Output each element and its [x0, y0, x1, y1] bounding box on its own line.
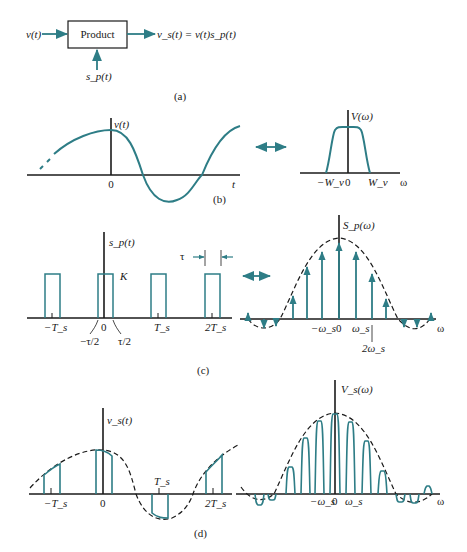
tick-ts: T_s [154, 475, 170, 487]
tick-zero: 0 [101, 321, 107, 333]
caption-b: (b) [213, 193, 226, 206]
freq-xlabel: ω [400, 176, 407, 188]
sampling-diagram: v(t) Product v_s(t) = v(t)s_p(t) s_p(t) … [0, 0, 467, 552]
input-label: v(t) [26, 28, 42, 41]
time-xlabel: t [232, 178, 236, 190]
caption-d: (d) [194, 527, 207, 540]
freq-marker-2ws: 2ω_s [362, 342, 385, 354]
panel-d-time: v_s(t) −T_s 0 T_s 2T_s (d) [29, 408, 238, 540]
tick-neg-ts: −T_s [44, 321, 67, 333]
impulse-train [248, 243, 431, 328]
tick-zero: 0 [100, 497, 106, 509]
product-label: Product [80, 28, 114, 40]
pulse-edge-right: τ/2 [118, 335, 131, 347]
output-label: v_s(t) = v(t)s_p(t) [157, 28, 236, 41]
pulse-train [45, 274, 220, 318]
amplitude-label: K [119, 270, 128, 282]
freq-tick-ws: ω_s [352, 322, 370, 334]
time-ylabel: s_p(t) [109, 236, 135, 249]
freq-tick-neg-w: −W_v [317, 176, 344, 188]
tick-ts: T_s [154, 321, 170, 333]
signal-curve [54, 126, 240, 202]
tick-2ts: 2T_s [205, 321, 226, 333]
pulse-edge-left: −τ/2 [80, 335, 99, 347]
caption-a: (a) [174, 90, 187, 103]
time-origin: 0 [108, 178, 114, 190]
freq-ylabel: V(ω) [351, 110, 373, 123]
panel-b-freq: V(ω) −W_v 0 W_v ω [300, 110, 407, 188]
leader-right [113, 320, 121, 334]
tick-neg-ts: −T_s [44, 497, 67, 509]
freq-ylabel: S_p(ω) [343, 219, 375, 232]
sinc-envelope [241, 413, 432, 502]
panel-b-time: v(t) 0 t (b) [27, 118, 240, 206]
sampled-pulses [44, 450, 222, 518]
replicated-spectra [255, 414, 432, 505]
freq-xlabel: ω [437, 495, 444, 507]
tick-marks [51, 488, 213, 494]
width-label: τ [180, 250, 185, 262]
time-ylabel: v(t) [114, 118, 130, 131]
freq-tick-w: W_v [368, 176, 388, 188]
sampling-label: s_p(t) [86, 70, 112, 83]
panel-c-freq: S_p(ω) −ω_s 0 ω_s ω 2ω_s [240, 215, 444, 354]
freq-xlabel: ω [437, 322, 444, 334]
freq-tick-zero: 0 [332, 495, 338, 507]
panel-d-freq: V_s(ω) −ω_s 0 ω_s ω [236, 380, 444, 507]
tick-2ts: 2T_s [205, 497, 226, 509]
freq-tick-zero: 0 [336, 322, 342, 334]
freq-ylabel: V_s(ω) [341, 383, 373, 396]
freq-tick-zero: 0 [345, 176, 351, 188]
panel-a-block-diagram: v(t) Product v_s(t) = v(t)s_p(t) s_p(t) … [26, 21, 236, 103]
caption-c: (c) [197, 364, 210, 377]
curve-dashed-start [40, 159, 50, 169]
panel-c-time: s_p(t) K τ −T_s 0 T_s 2T_s −τ/2 τ/2 (c) [27, 232, 233, 377]
leader-left [90, 320, 98, 334]
freq-tick-ws: ω_s [345, 495, 363, 507]
time-ylabel: v_s(t) [107, 414, 132, 427]
freq-tick-neg-ws: −ω_s [311, 322, 336, 334]
